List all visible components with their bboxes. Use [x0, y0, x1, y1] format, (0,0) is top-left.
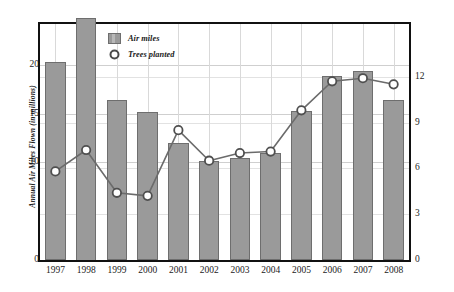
- data-point-2004: [266, 147, 274, 155]
- y-tick-right-6: 6: [415, 163, 439, 173]
- y-tick-left-0: 0: [15, 255, 39, 265]
- y-tick-left-10: 10: [15, 157, 39, 167]
- data-point-1999: [113, 189, 121, 197]
- legend-label-air-miles: Air miles: [128, 34, 159, 43]
- data-point-2000: [143, 192, 151, 200]
- legend-item-air-miles: Air miles: [108, 32, 174, 45]
- data-point-2006: [328, 77, 336, 85]
- chart-container: Annual Air Miles Flown (in millions) Tre…: [0, 0, 454, 292]
- legend: Air miles Trees planted: [108, 32, 174, 61]
- y-tick-left-20: 20: [15, 60, 39, 70]
- legend-item-trees-planted: Trees planted: [108, 48, 174, 61]
- data-point-2002: [205, 157, 213, 165]
- x-tick-2008: 2008: [372, 266, 416, 276]
- line-path: [55, 78, 393, 196]
- line-series-trees-planted: [40, 24, 409, 260]
- trees-planted-line: [40, 24, 409, 260]
- y-tick-left-15: 15: [15, 109, 39, 119]
- data-point-2005: [297, 106, 305, 114]
- y-tick-right-0: 0: [415, 255, 439, 265]
- data-point-1997: [51, 167, 59, 175]
- y-tick-right-9: 9: [415, 118, 439, 128]
- data-point-1998: [82, 146, 90, 154]
- y-tick-right-3: 3: [415, 209, 439, 219]
- data-point-2003: [236, 149, 244, 157]
- data-point-2001: [174, 126, 182, 134]
- data-point-2007: [359, 74, 367, 82]
- data-point-2008: [389, 80, 397, 88]
- y-tick-right-12: 12: [415, 72, 439, 82]
- legend-label-trees-planted: Trees planted: [128, 50, 174, 59]
- y-axis-title-left: Annual Air Miles Flown (in millions): [28, 67, 37, 227]
- circle-marker-icon: [108, 49, 121, 60]
- bar-swatch-icon: [108, 33, 121, 44]
- plot-area: [38, 22, 411, 262]
